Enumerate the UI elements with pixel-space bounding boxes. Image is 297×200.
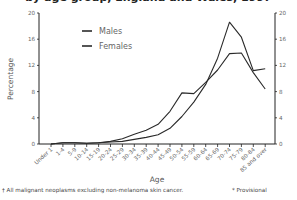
x-tick-label: 1-4	[55, 146, 66, 157]
y-tick-label-left: 20	[28, 10, 36, 16]
y-tick-label-right: 12	[279, 62, 286, 68]
y-axis-label: Percentage	[6, 58, 15, 101]
y-tick-label-right: 4	[279, 115, 283, 121]
y-tick-label-right: 0	[279, 141, 283, 147]
line-chart: 004488121216162020Under 11-45-910-1415-1…	[0, 0, 297, 200]
y-tick-label-left: 0	[31, 141, 35, 147]
y-tick-label-right: 20	[279, 10, 287, 16]
legend-label-females: Females	[99, 42, 132, 51]
y-tick-label-left: 12	[28, 62, 35, 68]
series-line-males	[51, 22, 265, 144]
x-axis-label: Age	[150, 175, 165, 184]
x-tick-label: Under 1	[33, 146, 54, 166]
y-tick-label-left: 4	[31, 115, 35, 121]
y-tick-label-left: 16	[28, 36, 36, 42]
y-tick-label-left: 8	[31, 89, 35, 95]
footnote-provisional: * Provisional	[232, 187, 267, 193]
y-tick-label-right: 8	[279, 89, 283, 95]
series-line-females	[51, 53, 265, 144]
footnote-definition: † All malignant neoplasms excluding non-…	[2, 187, 183, 193]
legend-label-males: Males	[99, 27, 122, 36]
y-tick-label-right: 16	[279, 36, 287, 42]
